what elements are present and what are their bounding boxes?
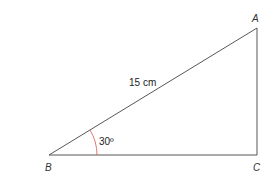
- vertex-label-b: B: [45, 162, 52, 173]
- right-triangle-diagram: A B C 15 cm 30º: [0, 0, 273, 184]
- vertex-label-c: C: [253, 162, 261, 173]
- hypotenuse-length-label: 15 cm: [129, 77, 156, 88]
- angle-arc-b: [90, 130, 97, 155]
- vertex-label-a: A: [251, 13, 259, 24]
- hypotenuse-ba: [49, 28, 257, 155]
- angle-label-b: 30º: [99, 136, 114, 147]
